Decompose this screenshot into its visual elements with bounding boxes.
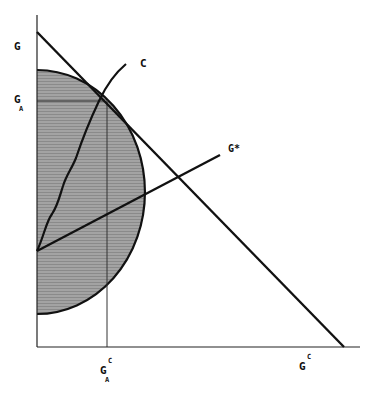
x-axis-label-gac-subscript: A (105, 377, 109, 384)
x-axis-label-gc: G (299, 361, 306, 372)
x-axis-label-gac-superscript: C (108, 358, 112, 365)
diagram: G G A C G* G C A G C (0, 0, 375, 395)
x-axis-label-gc-superscript: C (307, 354, 311, 361)
x-axis-label-gac: G (100, 365, 107, 376)
c-curve-label: C (140, 58, 147, 69)
y-axis-label-ga: G (14, 94, 21, 105)
diagram-canvas (0, 0, 375, 395)
gstar-ray-label: G* (228, 144, 240, 154)
y-axis-label-g: G (14, 41, 21, 52)
shaded-region (37, 70, 145, 314)
y-axis-label-ga-subscript: A (19, 106, 23, 113)
